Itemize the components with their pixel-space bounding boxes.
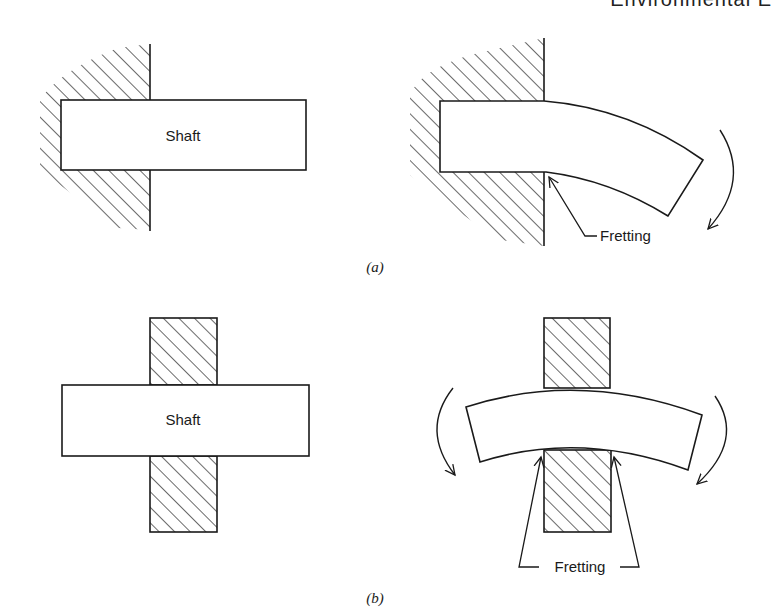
moment-arrow-icon bbox=[708, 130, 733, 229]
shaft-label: Shaft bbox=[165, 411, 201, 428]
fretting-leader-line bbox=[549, 177, 597, 236]
fretting-label: Fretting bbox=[600, 227, 651, 244]
panel-b-right: Fretting bbox=[437, 318, 727, 575]
panel-a-right: Fretting bbox=[410, 38, 733, 246]
fretting-leader-right bbox=[614, 457, 639, 567]
fretting-leader-left bbox=[519, 457, 541, 567]
top-clamp-block bbox=[544, 318, 610, 388]
panel-b-caption: (b) bbox=[366, 590, 384, 607]
panel-a-left: Shaft bbox=[40, 44, 306, 231]
bottom-clamp-block bbox=[544, 450, 611, 532]
panel-a-caption: (a) bbox=[366, 259, 384, 276]
fretting-label: Fretting bbox=[555, 558, 606, 575]
panel-b-left: Shaft bbox=[62, 318, 309, 532]
shaft-label: Shaft bbox=[165, 127, 201, 144]
bottom-clamp-block bbox=[150, 456, 217, 532]
top-clamp-block bbox=[150, 318, 217, 385]
right-moment-arrow-icon bbox=[697, 396, 727, 484]
left-moment-arrow-icon bbox=[437, 388, 455, 475]
